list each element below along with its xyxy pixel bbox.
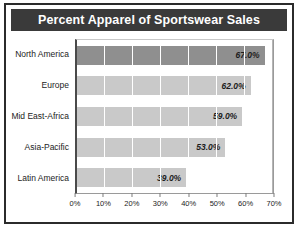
bar-row: 53.0% xyxy=(77,138,273,157)
page-title: Percent Apparel of Sportswear Sales xyxy=(38,13,260,27)
tick-mark xyxy=(273,193,274,197)
bar-value-label: 59.0% xyxy=(213,111,237,121)
x-axis-tick: 0% xyxy=(70,193,81,208)
category-label: Latin America xyxy=(18,169,70,188)
category-label: Europe xyxy=(42,76,69,95)
bar-value-label: 62.0% xyxy=(221,81,245,91)
bar-north-america: 67.0% xyxy=(77,46,265,65)
tick-mark xyxy=(75,193,76,197)
category-label: North America xyxy=(15,45,69,64)
tick-mark xyxy=(131,193,132,197)
tick-label: 40% xyxy=(181,199,196,208)
chart-frame: Percent Apparel of Sportswear Sales Nort… xyxy=(4,3,294,224)
bar-value-label: 53.0% xyxy=(196,142,220,152)
tick-mark xyxy=(160,193,161,197)
x-axis-tick: 70% xyxy=(266,193,281,208)
category-label: Mid East-Africa xyxy=(11,107,69,126)
tick-label: 20% xyxy=(124,199,139,208)
bar-row: 59.0% xyxy=(77,107,273,126)
tick-label: 0% xyxy=(70,199,81,208)
chart-title-bar: Percent Apparel of Sportswear Sales xyxy=(11,9,287,31)
x-axis-tick: 50% xyxy=(210,193,225,208)
tick-mark xyxy=(245,193,246,197)
tick-mark xyxy=(188,193,189,197)
bar-row: 67.0% xyxy=(77,46,273,65)
tick-label: 60% xyxy=(238,199,253,208)
x-axis-tick: 60% xyxy=(238,193,253,208)
plot-area: 67.0% 62.0% 59.0% 53.0% xyxy=(75,39,274,194)
tick-label: 10% xyxy=(96,199,111,208)
tick-mark xyxy=(103,193,104,197)
bar-row: 39.0% xyxy=(77,168,273,187)
bar-mid-east-africa: 59.0% xyxy=(77,107,242,126)
tick-label: 50% xyxy=(210,199,225,208)
bar-value-label: 39.0% xyxy=(157,173,181,183)
bar-asia-pacific: 53.0% xyxy=(77,138,225,157)
tick-label: 30% xyxy=(153,199,168,208)
x-axis-tick: 30% xyxy=(153,193,168,208)
x-axis-tick: 10% xyxy=(96,193,111,208)
tick-label: 70% xyxy=(266,199,281,208)
category-label: Asia-Pacific xyxy=(25,138,69,157)
x-axis-tick: 20% xyxy=(124,193,139,208)
bar-latin-america: 39.0% xyxy=(77,168,186,187)
x-axis: 0%10%20%30%40%50%60%70% xyxy=(75,193,274,213)
x-axis-tick: 40% xyxy=(181,193,196,208)
tick-mark xyxy=(217,193,218,197)
plot-wrapper: North America Europe Mid East-Africa Asi… xyxy=(11,35,287,221)
bar-row: 62.0% xyxy=(77,76,273,95)
bar-europe: 62.0% xyxy=(77,76,251,95)
bar-series: 67.0% 62.0% 59.0% 53.0% xyxy=(77,40,273,193)
category-axis-labels: North America Europe Mid East-Africa Asi… xyxy=(11,39,73,194)
bar-value-label: 67.0% xyxy=(235,50,259,60)
